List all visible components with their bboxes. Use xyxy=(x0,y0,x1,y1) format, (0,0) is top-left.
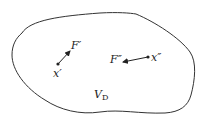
force-label-f-prime: F′ xyxy=(70,39,82,52)
region-label: VD xyxy=(94,88,108,102)
force-label-f-double-prime: F″ xyxy=(109,53,123,66)
region-label-subscript: D xyxy=(102,93,108,102)
diagram-canvas: F′ x′ F″ x″ VD xyxy=(0,0,206,128)
point-x-prime-group xyxy=(56,51,70,66)
force-arrow-f-double-prime xyxy=(123,57,148,62)
force-arrow-f-prime xyxy=(58,51,70,64)
point-label-x-double-prime: x″ xyxy=(151,51,162,64)
point-label-x-prime: x′ xyxy=(53,67,62,80)
point-x-double-prime-group xyxy=(123,55,150,62)
